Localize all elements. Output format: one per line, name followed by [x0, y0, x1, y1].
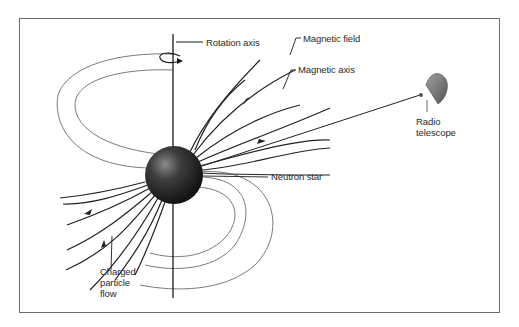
- field-arrow-icon: [243, 97, 250, 105]
- label-magnetic-field: Magnetic field: [303, 33, 360, 44]
- label-rotation-axis: Rotation axis: [206, 37, 260, 48]
- label-magnetic-axis: Magnetic axis: [298, 64, 355, 75]
- neutron-star: [145, 146, 203, 204]
- label-charged-particle-flow: Charged particle flow: [100, 266, 136, 299]
- closed-field-loops-upper: [57, 54, 173, 168]
- particle-flow-arrow-icon: [84, 209, 92, 215]
- pulsar-diagram: [0, 0, 519, 327]
- open-field-lines-upper: [190, 60, 330, 175]
- label-neutron-star: Neutron star: [271, 171, 322, 182]
- label-radio-telescope: Radio telescope: [416, 116, 456, 138]
- radio-telescope-icon: [419, 74, 447, 112]
- rotation-arrow-icon: [160, 53, 183, 64]
- magnetic-axis-line: [196, 95, 420, 168]
- field-arrow-icon: [257, 139, 266, 144]
